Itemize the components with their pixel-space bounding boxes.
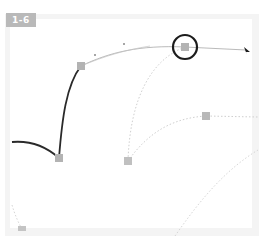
- handle-line-lower: [81, 46, 150, 66]
- guide-curve-middle: [128, 116, 258, 161]
- direction-line: [185, 47, 246, 50]
- main-path[interactable]: [12, 66, 81, 158]
- anchor-right[interactable]: [202, 112, 210, 120]
- anchor-middle[interactable]: [124, 157, 132, 165]
- anchor-corner[interactable]: [55, 154, 63, 162]
- handle-point[interactable]: [94, 54, 96, 56]
- anchor-top[interactable]: [77, 62, 85, 70]
- anchor-selected[interactable]: [181, 43, 189, 51]
- anchor-bottom-left[interactable]: [18, 226, 26, 231]
- guide-curve-lower: [175, 150, 258, 236]
- guide-curve-upper: [128, 47, 185, 161]
- handle-point[interactable]: [123, 43, 125, 45]
- pointer-arrow-icon: [244, 47, 250, 55]
- guide-curve-left: [12, 205, 22, 229]
- vector-artwork[interactable]: [0, 0, 266, 243]
